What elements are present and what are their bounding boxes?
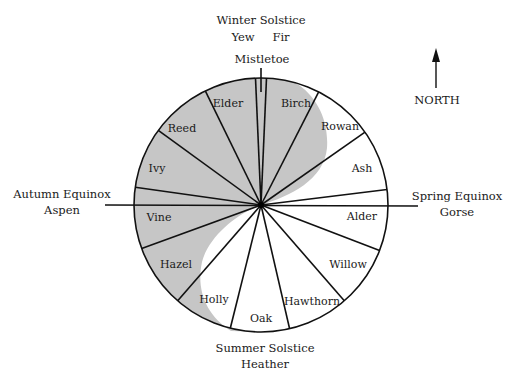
autumn-equinox-label: Autumn Equinox [12, 187, 111, 201]
segment-label-rowan: Rowan [321, 120, 359, 133]
summer-solstice-label: Summer Solstice [216, 341, 315, 355]
segment-label-vine: Vine [146, 211, 172, 224]
mistletoe-label: Mistletoe [235, 52, 290, 66]
tree-calendar-diagram: BirchRowanAshAlderWillowHawthornOakHolly… [0, 0, 512, 383]
fir-label: Fir [272, 30, 290, 44]
segment-label-reed: Reed [168, 122, 196, 135]
segment-label-alder: Alder [346, 210, 378, 223]
segment-label-elder: Elder [213, 97, 244, 110]
segment-label-willow: Willow [329, 258, 367, 271]
segment-label-oak: Oak [250, 312, 273, 325]
winter-solstice-label: Winter Solstice [216, 13, 305, 27]
segment-label-ash: Ash [351, 162, 373, 175]
segment-label-holly: Holly [199, 293, 229, 306]
spring-equinox-label: Spring Equinox [412, 189, 503, 203]
gorse-label: Gorse [440, 205, 475, 219]
segment-label-hawthorn: Hawthorn [284, 295, 340, 308]
heather-label: Heather [241, 357, 290, 371]
aspen-label: Aspen [43, 203, 80, 217]
north-arrow-icon [432, 48, 440, 88]
segment-label-birch: Birch [281, 97, 311, 110]
segment-label-ivy: Ivy [149, 162, 167, 175]
segment-label-hazel: Hazel [160, 258, 192, 271]
yew-label: Yew [230, 30, 254, 44]
north-label: NORTH [414, 93, 460, 107]
center-dot [258, 202, 264, 208]
